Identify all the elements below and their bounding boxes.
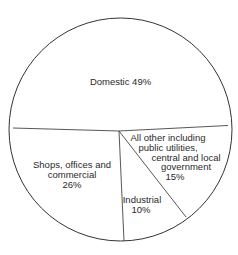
label-shops-value: 26% <box>62 179 82 190</box>
slice-label-domestic: Domestic 49% <box>90 76 152 87</box>
label-allother-value: 15% <box>165 171 185 182</box>
pie-outline <box>9 18 232 241</box>
label-industrial-value: 10% <box>131 204 151 215</box>
pie-chart: Domestic 49% Shops, offices and commerci… <box>0 0 238 255</box>
label-domestic: Domestic 49% <box>90 76 152 87</box>
